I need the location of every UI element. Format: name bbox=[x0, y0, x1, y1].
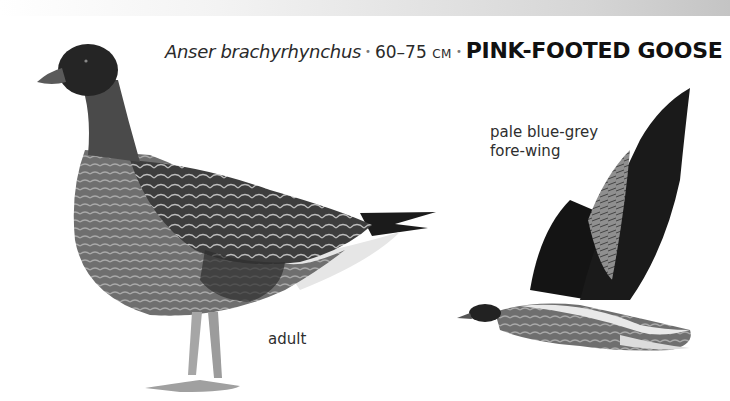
adult-caption: adult bbox=[268, 330, 306, 349]
flying-goose-illustration bbox=[0, 0, 730, 401]
forewing-caption: pale blue-grey fore-wing bbox=[490, 123, 598, 161]
